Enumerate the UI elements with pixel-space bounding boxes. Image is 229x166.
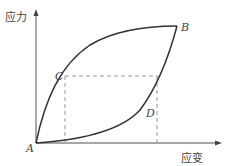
unloading-curve xyxy=(36,26,177,143)
y-axis-arrow-icon xyxy=(34,9,39,16)
point-a-label: A xyxy=(25,142,34,155)
point-c-label: C xyxy=(55,70,64,83)
hysteresis-diagram: 应力 应变 A B C D xyxy=(0,0,229,166)
x-axis-arrow-icon xyxy=(215,141,222,146)
x-axis-label: 应变 xyxy=(181,151,203,165)
point-d-label: D xyxy=(145,107,155,120)
point-b-label: B xyxy=(180,21,189,34)
y-axis-label: 应力 xyxy=(5,10,27,24)
